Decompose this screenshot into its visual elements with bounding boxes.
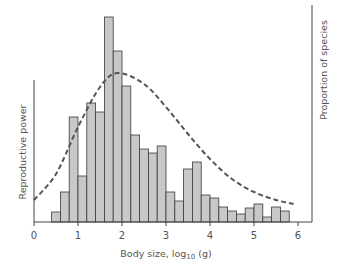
histogram-bar xyxy=(263,217,272,222)
histogram-bar xyxy=(280,211,289,222)
histogram-bar xyxy=(148,153,157,222)
histogram-bar xyxy=(210,198,219,222)
x-tick-label: 0 xyxy=(31,230,37,241)
histogram-bar xyxy=(184,169,193,222)
histogram-bar xyxy=(254,204,263,222)
x-tick-label: 4 xyxy=(207,230,213,241)
histogram-bar xyxy=(192,162,201,222)
x-tick-label: 2 xyxy=(119,230,125,241)
right-axis-title: Proportion of species xyxy=(318,20,329,120)
histogram-bar xyxy=(157,146,166,222)
x-tick-label: 5 xyxy=(251,230,257,241)
histogram-bar xyxy=(166,192,175,222)
histogram-bar xyxy=(245,208,254,222)
histogram-bar xyxy=(69,117,78,222)
histogram-chart: 0123456 Reproductive power Proportion of… xyxy=(0,0,338,276)
histogram-bar xyxy=(236,214,245,222)
x-tick-label: 1 xyxy=(75,230,81,241)
left-axis-title: Reproductive power xyxy=(17,104,28,199)
x-axis-ticks: 0123456 xyxy=(31,222,301,241)
histogram-bar xyxy=(228,211,237,222)
histogram-bar xyxy=(87,103,96,222)
histogram-bar xyxy=(219,207,228,222)
x-tick-label: 3 xyxy=(163,230,169,241)
histogram-bar xyxy=(140,149,149,222)
histogram-bar xyxy=(131,135,140,222)
histogram-bar xyxy=(113,51,122,222)
histogram-bar xyxy=(52,212,61,222)
x-axis-title: Body size, log10 (g) xyxy=(120,248,211,261)
histogram-bar xyxy=(272,207,281,222)
histogram-bar xyxy=(78,176,87,222)
x-tick-label: 6 xyxy=(295,230,301,241)
histogram-bar xyxy=(201,195,210,222)
histogram-bar xyxy=(104,17,113,222)
histogram-bar xyxy=(122,86,131,222)
histogram-bar xyxy=(60,192,69,222)
histogram-bar xyxy=(175,201,184,222)
histogram-bar xyxy=(96,112,105,222)
